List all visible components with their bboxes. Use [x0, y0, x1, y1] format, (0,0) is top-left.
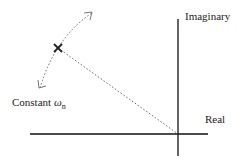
constant-text: Constant: [12, 96, 54, 108]
constant-wn-arc: [40, 13, 92, 88]
arrow-down-icon: [38, 80, 46, 88]
omega-subscript: n: [62, 102, 66, 111]
omega-symbol: ω: [54, 96, 62, 108]
radius-line: [58, 48, 178, 134]
pole-marker-icon: [54, 44, 62, 52]
imaginary-axis-label: Imaginary: [185, 10, 230, 22]
constant-wn-label: Constant ωn: [12, 96, 66, 111]
real-axis-label: Real: [205, 113, 225, 125]
s-plane-diagram: Imaginary Real Constant ωn: [0, 0, 239, 163]
diagram-graphics: [0, 0, 239, 163]
